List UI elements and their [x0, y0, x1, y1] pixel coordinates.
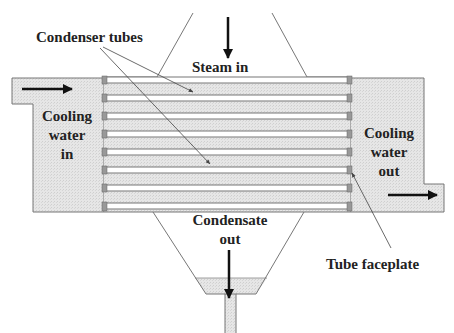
- label-condensate-out-line1: Condensate: [180, 211, 280, 230]
- condensate-pipe: [225, 294, 236, 333]
- tube: [102, 130, 352, 138]
- tube: [102, 76, 352, 84]
- tube: [102, 166, 352, 174]
- label-cooling-water-in: Cooling water in: [33, 107, 101, 164]
- label-cooling-water-out: Cooling water out: [354, 124, 424, 181]
- tube: [102, 148, 352, 156]
- label-cooling-water-in-line1: Cooling: [33, 107, 101, 126]
- label-cooling-water-out-line3: out: [354, 162, 424, 181]
- tube: [102, 94, 352, 102]
- label-tube-faceplate: Tube faceplate: [326, 255, 419, 274]
- label-condenser-tubes: Condenser tubes: [36, 28, 143, 47]
- tube: [102, 184, 352, 192]
- label-steam-in: Steam in: [192, 58, 248, 77]
- label-cooling-water-out-line1: Cooling: [354, 124, 424, 143]
- label-condensate-out-line2: out: [180, 230, 280, 249]
- label-cooling-water-in-line3: in: [33, 145, 101, 164]
- label-condensate-out: Condensate out: [180, 211, 280, 249]
- label-cooling-water-out-line2: water: [354, 143, 424, 162]
- label-cooling-water-in-line2: water: [33, 126, 101, 145]
- tube: [102, 112, 352, 120]
